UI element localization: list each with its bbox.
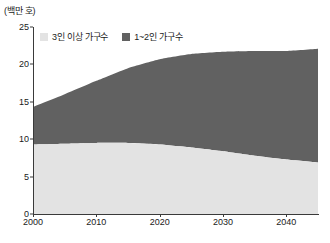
x-axis-tick-mark xyxy=(96,214,97,217)
x-axis-tick-label: 2000 xyxy=(23,217,43,227)
x-axis-tick-label: 2030 xyxy=(213,217,233,227)
x-axis-tick-mark xyxy=(223,214,224,217)
x-axis-tick-mark xyxy=(33,214,34,217)
x-axis-tick-label: 2020 xyxy=(150,217,170,227)
x-axis-tick-mark xyxy=(160,214,161,217)
chart-container: (백만 호) 3인 이상 가구수 1~2인 가구수 0510152025 200… xyxy=(0,0,330,243)
x-axis-ticks: 20002010202020302040 xyxy=(0,0,330,243)
x-axis-tick-label: 2010 xyxy=(86,217,106,227)
x-axis-tick-mark xyxy=(286,214,287,217)
x-axis-tick-label: 2040 xyxy=(276,217,296,227)
